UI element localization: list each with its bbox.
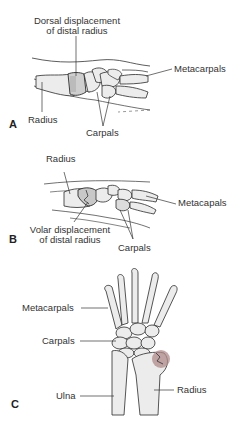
panel-letter-a: A [9,118,17,130]
label-carpals: Carpals [118,243,151,253]
label-carpals: Carpals [86,128,119,138]
label-volar-displacement: Volar displacement of distal radius [22,225,118,245]
label-ulna: Ulna [56,391,76,401]
label-volar-displacement-line2: of distal radius [22,235,118,245]
label-radius: Radius [46,154,76,164]
panel-letter-b: B [9,233,17,245]
label-metacarpals: Metacarpals [174,64,226,74]
label-metacarpals: Metacarpals [22,303,74,313]
label-radius: Radius [28,115,58,125]
panel-c-anterior-view: Metacarpals Carpals Ulna Radius C [0,265,241,421]
label-dorsal-displacement-line2: of distal radius [27,26,127,36]
panel-b-volar-displacement: Radius Metacapals Volar displacement of … [0,140,241,265]
label-carpals: Carpals [42,336,75,346]
label-radius: Radius [177,385,207,395]
wrist-anterior-illustration [0,265,241,421]
label-metacapals: Metacapals [178,198,227,208]
label-dorsal-displacement: Dorsal displacement of distal radius [27,16,127,36]
panel-a-dorsal-displacement: Dorsal displacement of distal radius Met… [0,0,241,140]
panel-letter-c: C [11,398,19,410]
